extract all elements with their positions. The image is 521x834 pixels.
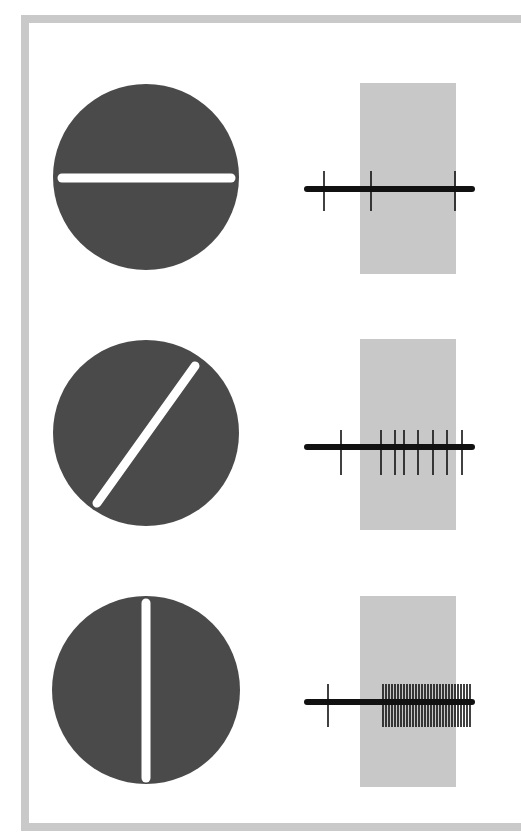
stimulus-window (360, 339, 456, 530)
stimulus-window (360, 596, 456, 787)
stimulus-row-horizontal (53, 83, 472, 274)
stimulus-window (360, 83, 456, 274)
stimulus-row-vertical (52, 596, 472, 787)
orientation-tuning-figure (0, 0, 521, 834)
stimulus-row-diagonal (53, 339, 472, 530)
